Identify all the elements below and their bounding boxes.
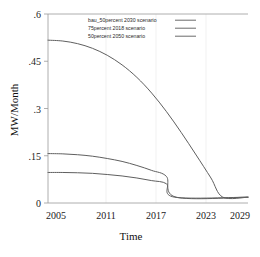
y-tick-label-0.15: .15 [29, 151, 42, 162]
x-tick-label-2017: 2017 [146, 210, 166, 221]
y-tick-label-0: 0 [36, 198, 41, 209]
x-tick-label-2029: 2029 [230, 210, 250, 221]
y-axis-title: MW/Month [8, 83, 20, 136]
x-tick-label-2011: 2011 [96, 210, 116, 221]
line-chart: .6 .45 .3 .15 0 2005 2011 2017 2023 2029… [0, 0, 260, 257]
y-tick-label-0.6: .6 [34, 9, 42, 20]
legend-label-0: bau_50percent 2030 scenario [88, 17, 157, 23]
y-tick-label-0.45: .45 [29, 56, 42, 67]
legend: bau_50percent 2030 scenario 75percent 20… [88, 17, 196, 39]
legend-label-2: 50percent 2050 scenario [88, 33, 145, 39]
legend-label-1: 75percent 2018 scenario [88, 25, 145, 31]
x-tick-label-2005: 2005 [46, 210, 66, 221]
x-axis-title: Time [120, 230, 143, 242]
x-tick-label-2023: 2023 [196, 210, 216, 221]
chart-figure: .6 .45 .3 .15 0 2005 2011 2017 2023 2029… [0, 0, 260, 257]
y-tick-label-0.3: .3 [34, 104, 42, 115]
